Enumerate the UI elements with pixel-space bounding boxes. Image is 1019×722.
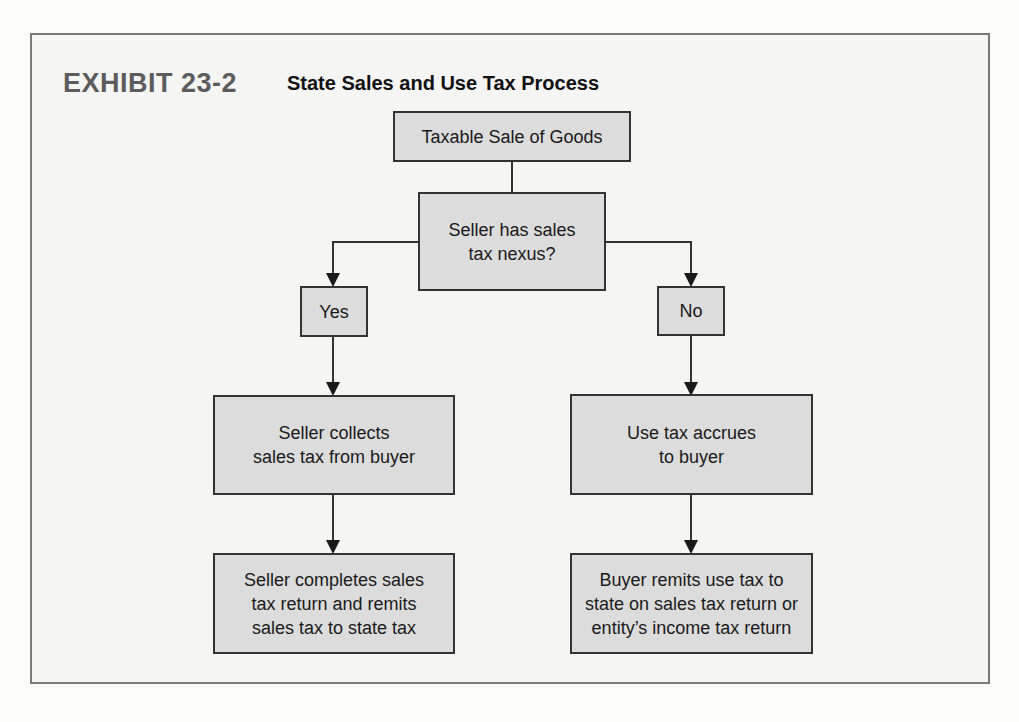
use-tax-accrues-line-1: Use tax accrues [627, 421, 756, 445]
buyer-remits-line-1: Buyer remits use tax to [585, 568, 798, 592]
use-tax-accrues-box: Use tax accrues to buyer [570, 394, 813, 495]
yes-label: Yes [319, 300, 348, 324]
decision-box: Seller has sales tax nexus? [418, 192, 606, 291]
no-label: No [679, 299, 702, 323]
seller-collects-line-2: sales tax from buyer [253, 445, 415, 469]
use-tax-accrues-line-2: to buyer [627, 445, 756, 469]
seller-collects-box: Seller collects sales tax from buyer [213, 395, 455, 495]
exhibit-title: State Sales and Use Tax Process [287, 72, 599, 95]
seller-remits-line-3: sales tax to state tax [244, 616, 424, 640]
start-box-text: Taxable Sale of Goods [421, 125, 602, 149]
yes-box: Yes [300, 286, 368, 337]
buyer-remits-line-2: state on sales tax return or [585, 592, 798, 616]
seller-remits-box: Seller completes sales tax return and re… [213, 553, 455, 654]
seller-remits-line-1: Seller completes sales [244, 568, 424, 592]
start-box: Taxable Sale of Goods [393, 111, 631, 162]
no-box: No [657, 286, 725, 336]
seller-collects-line-1: Seller collects [253, 421, 415, 445]
seller-remits-line-2: tax return and remits [244, 592, 424, 616]
buyer-remits-line-3: entity’s income tax return [585, 616, 798, 640]
decision-line-2: tax nexus? [448, 242, 575, 266]
exhibit-label: EXHIBIT 23-2 [63, 68, 237, 99]
decision-line-1: Seller has sales [448, 218, 575, 242]
buyer-remits-box: Buyer remits use tax to state on sales t… [570, 553, 813, 654]
